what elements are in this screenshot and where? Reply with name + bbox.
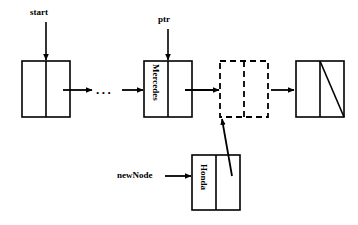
link-honda-to-newslot xyxy=(222,119,232,176)
node-head xyxy=(22,61,70,117)
ellipsis-continuation: ... xyxy=(96,83,113,96)
node-tail xyxy=(296,61,344,117)
label-ptr: ptr xyxy=(158,15,170,24)
label-newnode: newNode xyxy=(117,171,153,180)
node-label-mercedes: Mercedes xyxy=(151,64,160,101)
null-pointer-slash-icon xyxy=(320,61,344,117)
diagram-canvas: start ptr newNode Mercedes Honda ... xyxy=(0,0,358,225)
node-new-slot-box xyxy=(220,61,268,117)
node-new-slot xyxy=(220,61,268,117)
diagram-svg xyxy=(0,0,358,225)
node-label-honda: Honda xyxy=(199,164,208,190)
label-start: start xyxy=(30,8,48,17)
